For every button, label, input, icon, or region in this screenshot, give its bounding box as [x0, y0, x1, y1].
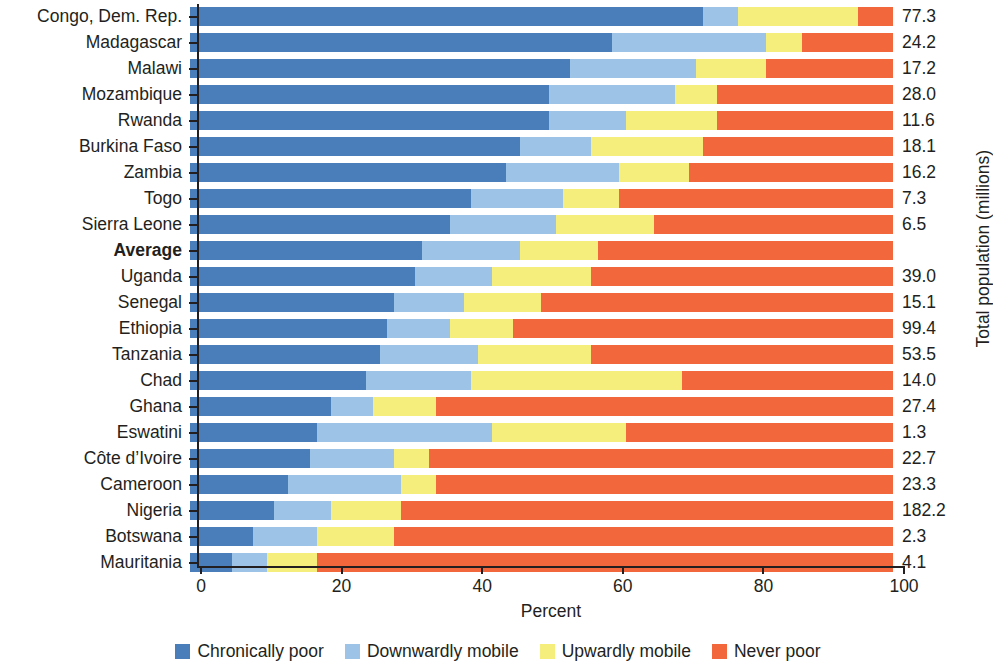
bar-area	[190, 342, 893, 368]
bar-area	[190, 160, 893, 186]
bar-segment-chronically-poor	[190, 449, 310, 468]
y-axis-tick	[189, 302, 197, 304]
bar-segment-upwardly-mobile	[563, 189, 619, 208]
bar-area	[190, 108, 893, 134]
row-population-value: 99.4	[893, 320, 960, 338]
y-axis-tick	[189, 484, 197, 486]
bar-segment-chronically-poor	[190, 215, 450, 234]
y-axis-tick	[189, 68, 197, 70]
chart-row: Chad14.0	[0, 368, 960, 394]
bar-area	[190, 446, 893, 472]
bar-segment-downwardly-mobile	[703, 7, 738, 26]
bar-segment-never-poor	[436, 475, 893, 494]
bar-segment-upwardly-mobile	[492, 423, 626, 442]
legend-label: Upwardly mobile	[562, 643, 691, 661]
bar-segment-never-poor	[317, 553, 893, 572]
right-axis-title: Total population (millions)	[973, 150, 994, 347]
bar-segment-chronically-poor	[190, 241, 422, 260]
y-axis-tick	[189, 536, 197, 538]
legend-item[interactable]: Upwardly mobile	[540, 643, 691, 661]
bar-segment-upwardly-mobile	[331, 501, 401, 520]
bar-segment-upwardly-mobile	[394, 449, 429, 468]
chart-row: Ghana27.4	[0, 394, 960, 420]
bar-segment-chronically-poor	[190, 527, 253, 546]
bar-segment-downwardly-mobile	[310, 449, 394, 468]
y-axis-tick	[189, 510, 197, 512]
stacked-bar	[190, 397, 893, 416]
row-population-value: 22.7	[893, 450, 960, 468]
stacked-bar	[190, 7, 893, 26]
bar-segment-downwardly-mobile	[253, 527, 316, 546]
bar-segment-chronically-poor	[190, 397, 331, 416]
row-population-value: 6.5	[893, 216, 960, 234]
bar-segment-upwardly-mobile	[471, 371, 682, 390]
chart-row: Senegal15.1	[0, 290, 960, 316]
legend-swatch-icon	[345, 644, 360, 659]
bar-area	[190, 56, 893, 82]
bar-segment-never-poor	[619, 189, 893, 208]
bar-segment-chronically-poor	[190, 163, 506, 182]
bar-segment-never-poor	[513, 319, 893, 338]
y-axis-tick	[189, 406, 197, 408]
row-category-label: Uganda	[0, 268, 190, 286]
bar-segment-never-poor	[598, 241, 893, 260]
x-axis-tick	[622, 566, 624, 574]
chart-row: Togo7.3	[0, 186, 960, 212]
row-category-label: Botswana	[0, 528, 190, 546]
legend-item[interactable]: Never poor	[712, 643, 821, 661]
y-axis-tick	[189, 250, 197, 252]
y-axis-tick	[189, 94, 197, 96]
row-category-label: Congo, Dem. Rep.	[0, 8, 190, 26]
bar-segment-never-poor	[654, 215, 893, 234]
bar-segment-never-poor	[591, 267, 893, 286]
row-category-label: Mauritania	[0, 554, 190, 572]
row-category-label: Ghana	[0, 398, 190, 416]
x-axis-tick	[481, 566, 483, 574]
bar-segment-downwardly-mobile	[450, 215, 555, 234]
chart-row: Côte d’Ivoire22.7	[0, 446, 960, 472]
y-axis-tick	[189, 16, 197, 18]
bar-segment-chronically-poor	[190, 85, 549, 104]
y-axis-tick	[189, 172, 197, 174]
bar-area	[190, 212, 893, 238]
row-category-label: Côte d’Ivoire	[0, 450, 190, 468]
row-population-value: 16.2	[893, 164, 960, 182]
bar-segment-chronically-poor	[190, 501, 274, 520]
bar-segment-never-poor	[394, 527, 893, 546]
row-category-label: Mozambique	[0, 86, 190, 104]
chart-row: Madagascar24.2	[0, 30, 960, 56]
legend-item[interactable]: Chronically poor	[175, 643, 323, 661]
x-axis-tick-label: 60	[613, 576, 632, 597]
bar-segment-upwardly-mobile	[738, 7, 858, 26]
x-axis-tick	[200, 566, 202, 574]
y-axis-tick	[189, 276, 197, 278]
row-population-value: 2.3	[893, 528, 960, 546]
bar-area	[190, 524, 893, 550]
bar-segment-upwardly-mobile	[766, 33, 801, 52]
bar-area	[190, 394, 893, 420]
x-axis-tick	[762, 566, 764, 574]
bar-segment-upwardly-mobile	[373, 397, 436, 416]
bar-area	[190, 82, 893, 108]
legend-label: Chronically poor	[197, 643, 323, 661]
stacked-bar	[190, 85, 893, 104]
bar-segment-never-poor	[802, 33, 893, 52]
bar-segment-never-poor	[717, 111, 893, 130]
x-axis-tick	[341, 566, 343, 574]
bar-segment-chronically-poor	[190, 137, 520, 156]
chart-row: Sierra Leone6.5	[0, 212, 960, 238]
bar-area	[190, 316, 893, 342]
stacked-bar	[190, 215, 893, 234]
row-population-value: 24.2	[893, 34, 960, 52]
bar-segment-upwardly-mobile	[520, 241, 597, 260]
bar-segment-downwardly-mobile	[471, 189, 562, 208]
bar-segment-upwardly-mobile	[675, 85, 717, 104]
bar-area	[190, 498, 893, 524]
y-axis-tick	[189, 328, 197, 330]
legend-item[interactable]: Downwardly mobile	[345, 643, 519, 661]
row-population-value: 1.3	[893, 424, 960, 442]
bar-segment-upwardly-mobile	[492, 267, 590, 286]
row-population-value: 18.1	[893, 138, 960, 156]
y-axis-tick	[189, 146, 197, 148]
bar-segment-downwardly-mobile	[612, 33, 767, 52]
